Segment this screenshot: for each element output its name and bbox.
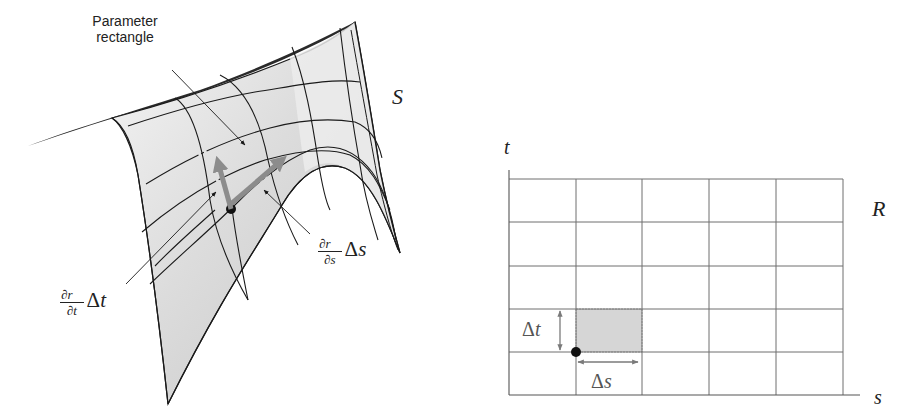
figure-canvas (0, 0, 907, 418)
delta-s-label: Δs (591, 370, 612, 393)
vector-s-label: ∂r⃗ ∂s Δs (318, 237, 366, 266)
surface-back-face (290, 22, 400, 253)
fraction-dr-ds: ∂r⃗ ∂s (318, 237, 342, 266)
delta-symbol: Δ (591, 370, 604, 392)
label-line-1: Parameter (80, 13, 170, 29)
delta-symbol: Δ (87, 288, 101, 312)
region-label: R (872, 196, 885, 222)
corner-point (571, 347, 581, 357)
highlighted-cell (576, 309, 642, 352)
s-axis-label: s (874, 386, 882, 409)
variable: s (358, 237, 366, 261)
t-axis-label: t (504, 136, 510, 159)
fraction-dr-dt: ∂r⃗ ∂t (60, 288, 84, 317)
delta-symbol: Δ (345, 237, 359, 261)
parameter-rectangle-label: Parameter rectangle (80, 13, 170, 45)
variable: s (604, 370, 612, 392)
delta-symbol: Δ (522, 318, 535, 340)
surface-label: S (392, 84, 403, 110)
grid (509, 179, 843, 395)
surface-s (28, 22, 400, 404)
variable: t (100, 288, 106, 312)
variable: t (535, 318, 541, 340)
numerator: ∂r⃗ (318, 237, 342, 252)
denominator: ∂t (67, 303, 77, 317)
vector-t-label: ∂r⃗ ∂t Δt (60, 288, 106, 317)
parameter-region-r (509, 170, 860, 395)
delta-t-label: Δt (522, 318, 540, 341)
denominator: ∂s (324, 252, 335, 266)
label-line-2: rectangle (80, 29, 170, 45)
numerator: ∂r⃗ (60, 288, 84, 303)
